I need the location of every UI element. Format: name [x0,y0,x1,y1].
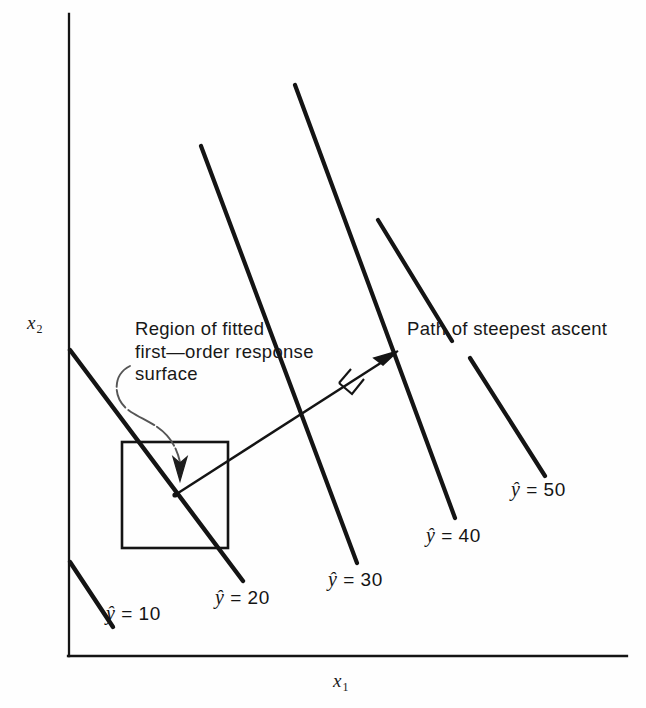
contour-line-yhat-50-lower [470,358,545,476]
contour-label-yhat-20: ŷ = 20 [215,586,270,609]
yhat-symbol: ŷ [328,568,337,591]
contour-value: 10 [139,603,161,624]
response-surface-contour-figure: x2 x1 ŷ = 10 ŷ = 20 ŷ = 30 ŷ = 40 ŷ = 50… [0,0,646,708]
region-annotation: Region of fitted first—order response su… [135,318,314,386]
x-axis-label: x1 [333,670,347,692]
contour-plot-canvas [0,0,646,708]
contour-value: 40 [459,525,481,546]
equals-symbol: = [441,525,453,546]
contour-value: 30 [361,569,383,590]
equals-symbol: = [343,569,355,590]
y-axis-label: x2 [27,312,41,334]
design-center-point [172,492,177,497]
contour-label-yhat-30: ŷ = 30 [328,568,383,591]
equals-symbol: = [121,603,133,624]
yhat-symbol: ŷ [106,602,115,625]
path-of-steepest-ascent-label: Path of steepest ascent [407,318,607,341]
contour-value: 50 [544,479,566,500]
contour-value: 20 [248,587,270,608]
equals-symbol: = [230,587,242,608]
equals-symbol: = [526,479,538,500]
yhat-symbol: ŷ [426,524,435,547]
yhat-symbol: ŷ [511,478,520,501]
contour-line-yhat-40 [295,85,455,518]
contour-label-yhat-50: ŷ = 50 [511,478,566,501]
region-annotation-line-1: Region of fitted [135,318,314,341]
contour-label-yhat-10: ŷ = 10 [106,602,161,625]
region-annotation-line-2: first—order response [135,341,314,364]
region-annotation-line-3: surface [135,363,314,386]
yhat-symbol: ŷ [215,586,224,609]
contour-label-yhat-40: ŷ = 40 [426,524,481,547]
